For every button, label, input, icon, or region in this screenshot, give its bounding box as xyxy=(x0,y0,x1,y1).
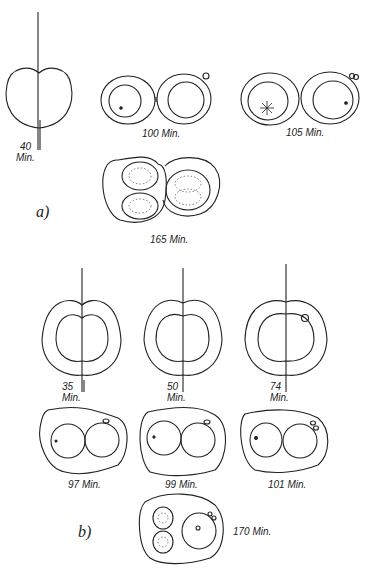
cell-outline xyxy=(6,68,72,128)
stage-a-105min xyxy=(241,72,359,125)
panel-label-b: b) xyxy=(78,523,91,541)
time-label-b-170: 170 Min. xyxy=(233,526,271,537)
stage-b-170min xyxy=(139,494,223,564)
stage-a-165min xyxy=(103,157,220,222)
stage-b-35min xyxy=(42,268,121,392)
time-label-b-97: 97 Min. xyxy=(68,479,101,490)
time-label-b-35: 35 Min. xyxy=(62,381,81,403)
time-label-b-99: 99 Min. xyxy=(165,479,198,490)
panel-label-a: a) xyxy=(36,203,49,221)
stage-b-101min xyxy=(241,410,328,473)
time-label-b-50: 50 Min. xyxy=(167,381,186,403)
time-label-b-74: 74 Min. xyxy=(270,381,289,403)
stage-a-100min xyxy=(101,73,211,124)
stage-a-40min xyxy=(6,12,72,150)
stage-b-97min xyxy=(40,407,127,473)
stage-b-74min xyxy=(245,264,327,392)
stage-b-50min xyxy=(144,268,222,392)
time-label-b-101: 101 Min. xyxy=(268,479,306,490)
time-label-a-165: 165 Min. xyxy=(150,234,188,245)
time-label-a-40: 40 Min. xyxy=(16,141,35,163)
time-label-a-100: 100 Min. xyxy=(142,128,180,139)
stage-b-99min xyxy=(140,407,226,475)
time-label-a-105: 105 Min. xyxy=(286,127,324,138)
